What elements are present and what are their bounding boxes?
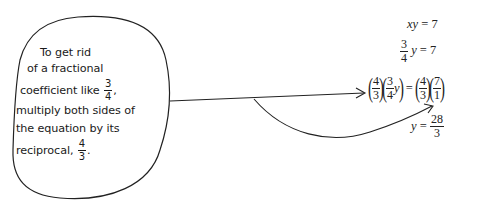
equation-3: ( 4 3 )( 3 4 y) = ( 4 3 )( 7 1 ) — [369, 75, 444, 102]
eq3-fraction-2: 3 4 — [386, 75, 394, 101]
eq2-fraction: 3 4 — [400, 38, 408, 64]
coefficient-fraction: 3 4 — [104, 79, 112, 102]
callout-line-2: of a fractional — [16, 61, 166, 77]
callout-line-6: reciprocal, 4 3 . — [16, 139, 166, 162]
equation-4: y = 28 3 — [411, 113, 444, 139]
callout-line-3: coefficient like 3 4 , — [16, 79, 166, 102]
callout-line-1: To get rid — [16, 45, 166, 61]
callout-line-5: the equation by its — [16, 121, 166, 137]
curved-arrow — [254, 99, 432, 137]
eq4-fraction: 28 3 — [430, 113, 444, 139]
callout-text: To get rid of a fractional coefficient l… — [16, 45, 166, 162]
equation-2: 3 4 y = 7 — [400, 38, 436, 64]
equation-1: xy = 7 — [407, 17, 438, 32]
callout-line-4: multiply both sides of — [16, 103, 166, 119]
straight-arrow — [170, 93, 364, 101]
reciprocal-fraction: 4 3 — [78, 139, 86, 162]
